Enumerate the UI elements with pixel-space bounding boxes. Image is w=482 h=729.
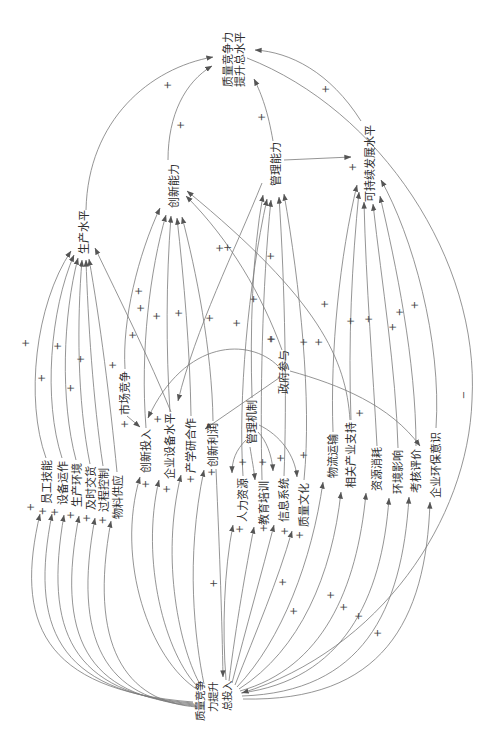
node-total-input-line-1: 质量竞争 [194,680,206,721]
edge-information-system-to-management-capability [279,197,285,476]
edge-innovation-profit-to-total-input [216,469,223,677]
edge-total-input-to-human-resources [224,525,233,680]
node-industry-support: 相关产业支持 [344,422,358,488]
edge-assessment-to-sustainability-level [380,196,416,446]
edge-management-mechanism-to-human-resources [232,440,246,473]
node-employee-skill: 员工技能 [40,460,54,504]
plus-polarity-sign: + [133,287,144,295]
edge-management-capability-to-sustainability-level [284,157,351,160]
node-equipment-level: 企业设备水平 [163,413,177,479]
node-assessment: 考核评价 [409,449,423,493]
plus-polarity-sign: + [294,531,305,539]
plus-polarity-sign: + [354,409,365,417]
edge-total-input-to-equipment-level [152,480,199,688]
edge-total-input-to-education-training [229,527,254,681]
plus-polarity-sign: + [162,81,173,89]
edge-quality-culture-to-management-capability [284,194,307,480]
plus-polarity-sign: + [277,578,288,586]
edge-management-mechanism-to-quality-culture [259,425,297,477]
edge-total-input-to-env-awareness [243,502,430,699]
plus-polarity-sign: + [353,612,364,620]
minus-polarity-sign: − [458,391,469,399]
plus-polarity-sign: + [338,603,349,611]
plus-polarity-sign: + [257,458,268,466]
plus-polarity-sign: + [185,475,196,483]
node-human-resources: 人力资源 [236,478,250,522]
plus-polarity-sign: + [175,121,186,129]
node-total-input-line-3: 总投入 [221,680,233,711]
node-environmental-impact: 环境影响 [391,450,405,494]
node-total-input-line-2: 力提升 [207,682,219,712]
node-layer: 质量竞争力 提升总水平 质量竞争 力提升 总投入 生产水平 创新能力 管理能力 … [40,32,443,722]
plus-polarity-sign: + [65,511,76,519]
edge-total-input-to-material-supply [104,521,197,707]
node-market-competition: 市场竞争 [118,371,132,415]
node-production-level: 生产水平 [77,210,91,254]
plus-polarity-sign: + [275,454,286,462]
plus-polarity-sign: + [36,374,47,382]
plus-polarity-sign: + [151,312,162,320]
node-env-awareness: 企业环保意识 [429,432,443,498]
edge-total-input-to-employee-skill [32,514,193,702]
plus-polarity-sign: + [119,420,130,428]
plus-polarity-sign: + [394,308,405,316]
plus-polarity-sign: + [208,579,219,587]
plus-polarity-sign: + [37,507,48,515]
plus-polarity-sign: + [387,323,398,331]
node-iur-cooperation: 产学研合作 [184,418,198,473]
plus-polarity-sign: + [140,480,151,488]
edge-industry-support-to-sustainability-level [350,192,359,420]
plus-polarity-sign: + [319,300,330,308]
node-sustainability-level: 可持续发展水平 [363,125,377,202]
plus-polarity-sign: + [320,85,331,93]
plus-polarity-sign: + [265,335,276,343]
plus-polarity-sign: + [256,113,267,121]
node-information-system: 信息系统 [277,478,291,522]
plus-polarity-sign: + [347,163,358,171]
plus-polarity-sign: + [75,355,86,363]
node-total-level-line-2: 提升总水平 [233,32,247,87]
node-total-level: 质量竞争力 提升总水平 [221,32,247,87]
node-management-mechanism: 管理机制 [245,400,259,444]
plus-polarity-sign: + [204,314,215,322]
node-government-participation: 政府参与 [277,350,291,394]
plus-polarity-sign: + [231,319,242,327]
plus-polarity-sign: + [313,338,324,346]
plus-polarity-sign: + [152,415,163,423]
plus-polarity-sign: + [173,309,184,317]
node-total-level-line-1: 质量竞争力 [221,32,235,87]
edge-management-capability-to-equipment-level [178,183,262,401]
edge-total-input-to-information-system [232,525,274,683]
edge-total-input-to-on-time-delivery [72,516,195,705]
edge-total-input-to-production-environment [58,515,194,704]
node-total-input: 质量竞争 力提升 总投入 [194,680,233,721]
edge-total-input-to-innovation-input [132,477,198,690]
plus-polarity-sign: + [325,591,336,599]
edge-total-input-to-quality-culture [235,531,292,685]
node-production-environment: 生产环境 [70,463,84,507]
node-material-supply: 物料供应 [111,475,125,519]
edge-total-input-to-innovation-profit [193,470,204,684]
plus-polarity-sign: + [135,304,146,312]
node-process-control: 过程控制 [97,468,111,512]
node-education-training: 教育培训 [257,481,271,525]
plus-polarity-sign: + [298,338,309,346]
plus-polarity-sign: + [222,243,233,251]
plus-polarity-sign: + [248,295,259,303]
plus-polarity-sign: + [234,525,245,533]
edge-sustainability-level-to-total-level [255,50,361,121]
plus-polarity-sign: + [97,516,108,524]
plus-polarity-sign: + [49,508,60,516]
plus-polarity-sign: + [279,527,290,535]
plus-polarity-sign: + [161,485,172,493]
edge-equipment-level-to-production-level [95,248,171,412]
plus-polarity-sign: + [52,342,63,350]
plus-polarity-sign: + [81,514,92,522]
plus-polarity-sign: + [363,315,374,323]
plus-polarity-sign: + [265,252,276,260]
plus-polarity-sign: + [237,458,248,466]
plus-polarity-sign: + [107,361,118,369]
plus-polarity-sign: + [206,468,217,476]
node-innovation-capability: 创新能力 [167,164,181,208]
edge-logistics-to-sustainability-level [332,185,357,432]
